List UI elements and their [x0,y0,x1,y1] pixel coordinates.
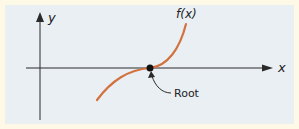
x-axis-arrow-icon [262,65,273,72]
annotation-arrow-icon [148,71,155,78]
root-diagram: y x f(x) Root [0,0,299,129]
root-annotation: Root [174,87,200,100]
y-axis-arrow-icon [36,12,44,22]
x-axis-label: x [277,60,286,75]
annotation-leader [152,76,171,93]
curve-label: f(x) [176,7,197,21]
y-axis-label: y [47,10,56,25]
root-point [147,65,154,72]
function-curve [97,24,186,100]
